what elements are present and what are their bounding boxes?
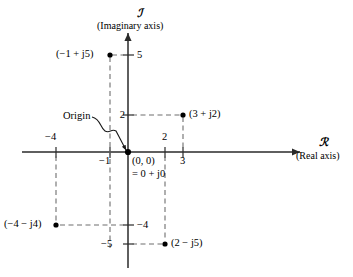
origin-leader-line (92, 117, 126, 150)
point-label-minus4-minus-j4: (−4 − j4) (4, 219, 42, 230)
tick-label-real-minus4: −4 (45, 132, 56, 143)
point-marker-origin[interactable] (125, 149, 131, 155)
tick-label-real-minus1: −1 (99, 156, 110, 167)
tick-label-real-3: 3 (180, 156, 185, 167)
point-marker-minus4-minus-j4[interactable] (53, 222, 58, 227)
origin-coordinate-label-alt: = 0 + j0 (132, 169, 165, 180)
point-label-3-plus-j2: (3 + j2) (189, 109, 221, 120)
point-label-2-minus-j5: (2 − j5) (171, 238, 203, 249)
tick-label-imag-minus4: −4 (137, 220, 148, 231)
tick-label-real-2: 2 (162, 132, 167, 143)
point-marker-2-minus-j5[interactable] (162, 241, 167, 246)
complex-plane-figure: ℐ (Imaginary axis) ℛ (Real axis) −4 −1 2… (0, 0, 353, 277)
tick-label-imag-5: 5 (137, 50, 142, 61)
tick-label-imag-minus5: −5 (101, 239, 112, 250)
tick-label-imag-2: 2 (115, 110, 125, 121)
imaginary-axis-symbol: ℐ (137, 8, 142, 20)
point-marker-minus1-plus-j5[interactable] (107, 52, 112, 57)
origin-coordinate-label: (0, 0) (132, 156, 155, 167)
real-axis-name: (Real axis) (296, 151, 340, 161)
real-axis-symbol: ℛ (319, 137, 328, 149)
point-marker-3-plus-j2[interactable] (180, 112, 185, 117)
imaginary-axis-name: (Imaginary axis) (97, 21, 163, 31)
origin-callout-label: Origin (63, 111, 90, 122)
point-label-minus1-plus-j5: (−1 + j5) (56, 49, 94, 60)
